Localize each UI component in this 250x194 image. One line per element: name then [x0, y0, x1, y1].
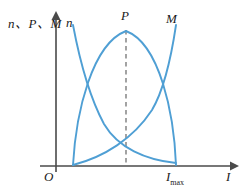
curve-label-n: n — [66, 16, 73, 29]
origin-label: O — [44, 170, 53, 183]
curve-m-torque — [73, 25, 176, 165]
curve-label-p: P — [121, 9, 129, 22]
x-axis-label: I — [226, 170, 230, 183]
figure-canvas: n、P、M O I Imax n P M — [0, 0, 250, 194]
imax-subscript: max — [170, 178, 184, 187]
y-axis — [52, 11, 61, 172]
curve-label-m: M — [166, 12, 177, 25]
y-axis-label: n、P、M — [8, 17, 62, 30]
x-axis — [40, 162, 239, 171]
x-axis-arrowhead — [230, 162, 239, 171]
imax-tick-label: Imax — [166, 170, 184, 187]
